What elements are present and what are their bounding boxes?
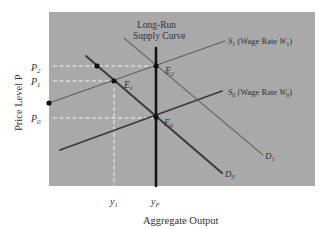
s1-label: S1 (Wage Rate W1) [228, 36, 292, 47]
y-axis-title: Price Level P [13, 74, 24, 131]
point-e1 [111, 78, 116, 83]
aggregate-supply-demand-diagram: Long-Run Supply Curve S1 (Wage Rate W1) … [0, 0, 325, 229]
y-tick-p0: P0 [30, 113, 41, 126]
point-e0 [153, 114, 158, 119]
s0-label: S0 (Wage Rate W0) [228, 87, 292, 98]
point-s1-start [46, 100, 51, 105]
lras-label-line1: Long-Run [137, 20, 176, 30]
point-d0-p2 [94, 63, 99, 68]
x-axis-title: Aggregate Output [143, 215, 219, 226]
point-e2 [153, 63, 158, 68]
y-tick-p2: P2 [30, 62, 41, 75]
lras-label-line2: Supply Curve [133, 31, 186, 41]
y-tick-p1: P1 [30, 76, 41, 89]
x-tick-yf: yF [150, 196, 160, 208]
x-tick-y1: y1 [109, 196, 118, 208]
